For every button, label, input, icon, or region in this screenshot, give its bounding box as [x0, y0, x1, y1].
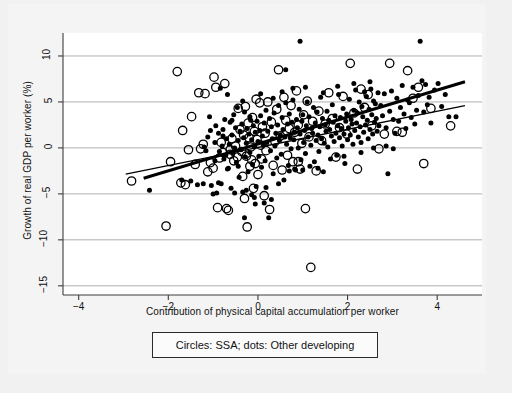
data-point-dot — [232, 190, 237, 195]
data-point-circle — [308, 117, 316, 125]
y-tick-label: 10 — [22, 49, 52, 60]
legend-box: Circles: SSA; dots: Other developing — [152, 332, 378, 358]
data-point-circle — [127, 177, 135, 185]
data-point-circle — [403, 66, 411, 74]
data-point-circle — [273, 105, 281, 113]
data-point-dot — [332, 139, 337, 144]
data-point-dot — [380, 113, 385, 118]
data-point-circle — [315, 107, 323, 115]
data-point-circle — [269, 161, 277, 169]
data-point-dot — [287, 111, 292, 116]
data-point-circle — [241, 102, 249, 110]
data-point-circle — [294, 158, 302, 166]
data-point-dot — [325, 144, 330, 149]
data-point-dot — [385, 171, 390, 176]
data-point-circle — [209, 164, 217, 172]
data-point-circle — [380, 130, 388, 138]
data-point-dot — [271, 171, 276, 176]
data-point-dot — [324, 109, 329, 114]
data-point-circle — [264, 98, 272, 106]
data-point-circle — [420, 159, 428, 167]
data-point-circle — [184, 146, 192, 154]
data-point-dot — [412, 122, 417, 127]
data-point-dot — [342, 161, 347, 166]
data-point-dot — [216, 180, 221, 185]
x-tick-label: 2 — [333, 301, 363, 312]
data-point-dot — [387, 109, 392, 114]
data-point-dot — [229, 186, 234, 191]
data-point-dot — [222, 117, 227, 122]
data-point-dot — [264, 185, 269, 190]
data-point-dot — [205, 134, 210, 139]
data-point-circle — [173, 67, 181, 75]
data-point-dot — [340, 144, 345, 149]
data-point-circle — [199, 140, 207, 148]
data-point-circle — [257, 155, 265, 163]
data-point-dot — [303, 85, 308, 90]
data-point-dot — [382, 91, 387, 96]
legend-label: Circles: SSA; dots: Other developing — [176, 339, 355, 351]
data-point-circle — [162, 222, 170, 230]
data-point-dot — [369, 112, 374, 117]
data-point-dot — [436, 81, 441, 86]
data-point-circle — [262, 146, 270, 154]
data-point-dot — [225, 167, 230, 172]
data-point-dot — [394, 96, 399, 101]
data-point-dot — [370, 132, 375, 137]
data-point-circle — [385, 59, 393, 67]
data-point-dot — [274, 156, 279, 161]
data-point-dot — [356, 134, 361, 139]
data-point-circle — [312, 167, 320, 175]
data-point-dot — [375, 129, 380, 134]
data-point-dot — [201, 181, 206, 186]
data-point-dot — [419, 78, 424, 83]
data-point-dot — [367, 79, 372, 84]
x-tick-label: −2 — [153, 301, 183, 312]
data-point-circle — [325, 89, 333, 97]
data-point-circle — [217, 138, 225, 146]
data-point-circle — [261, 129, 269, 137]
data-point-circle — [254, 170, 262, 178]
data-point-dot — [351, 81, 356, 86]
data-point-circle — [212, 83, 220, 91]
data-point-circle — [342, 130, 350, 138]
data-point-dot — [220, 127, 225, 132]
data-point-dot — [208, 128, 213, 133]
data-point-circle — [210, 73, 218, 81]
data-point-circle — [278, 166, 286, 174]
data-point-circle — [332, 153, 340, 161]
data-point-circle — [353, 165, 361, 173]
data-point-dot — [384, 144, 389, 149]
data-point-dot — [283, 67, 288, 72]
data-point-circle — [292, 87, 300, 95]
data-point-dot — [266, 215, 271, 220]
data-point-dot — [213, 123, 218, 128]
data-point-dot — [231, 112, 236, 117]
y-tick-label: 5 — [22, 95, 52, 106]
data-point-dot — [337, 135, 342, 140]
data-point-circle — [299, 111, 307, 119]
data-point-circle — [398, 128, 406, 136]
data-point-dot — [454, 114, 459, 119]
data-point-circle — [307, 263, 315, 271]
data-point-dot — [400, 83, 405, 88]
data-point-dot — [264, 108, 269, 113]
data-point-circle — [181, 180, 189, 188]
data-point-circle — [301, 204, 309, 212]
data-point-dot — [329, 133, 334, 138]
data-point-dot — [262, 201, 267, 206]
data-point-circle — [375, 145, 383, 153]
data-point-dot — [312, 159, 317, 164]
data-point-dot — [195, 182, 200, 187]
data-point-dot — [341, 154, 346, 159]
data-point-dot — [335, 84, 340, 89]
data-point-dot — [281, 178, 286, 183]
figure-container: Contribution of physical capital accumul… — [0, 0, 512, 393]
data-point-dot — [360, 114, 365, 119]
data-point-dot — [289, 146, 294, 151]
data-point-circle — [243, 223, 251, 231]
data-point-dot — [269, 197, 274, 202]
data-point-dot — [428, 121, 433, 126]
data-point-dot — [207, 114, 212, 119]
data-point-dot — [373, 101, 378, 106]
